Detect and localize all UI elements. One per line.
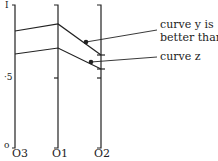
- axis-o1: [54, 5, 58, 148]
- axis-o2: [97, 5, 101, 148]
- tick-0: o: [4, 140, 9, 150]
- annotation-curve-y-line1: curve y is: [160, 19, 214, 31]
- axis-label-o1: O1: [52, 147, 68, 160]
- axis-label-o2: O2: [94, 147, 110, 160]
- axis-label-o3: O3: [12, 147, 28, 160]
- annotation-curve-y-line2: better than: [160, 32, 218, 44]
- annotation-curve-z: curve z: [160, 51, 201, 63]
- tick-1: I: [5, 0, 9, 10]
- tick-05: ·5: [4, 72, 13, 82]
